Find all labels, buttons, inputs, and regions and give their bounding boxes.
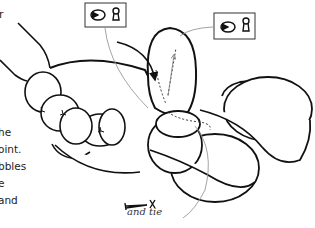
twist-lock-box-2 [214,13,255,39]
balloon-body [50,60,148,76]
caption-and-tie: and tie [127,206,162,217]
balloon-diagram: r he oint. bbles e and [0,0,315,228]
bubble-chain [25,72,140,173]
balloon-illustration [0,0,315,228]
twist-lock-box-1 [85,3,126,27]
